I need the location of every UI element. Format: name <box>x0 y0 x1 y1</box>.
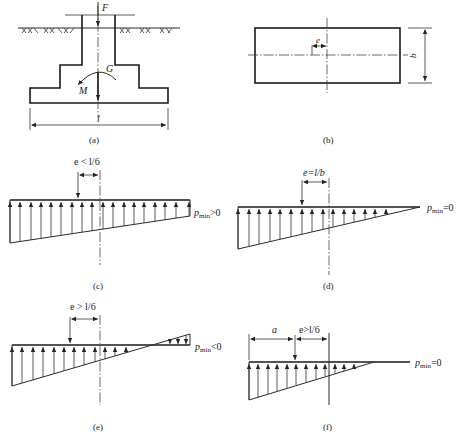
caption-d: (d) <box>323 281 334 291</box>
label-m: M <box>78 85 88 96</box>
condition-c: e < l/6 <box>74 156 100 167</box>
soil-hatch-icon <box>22 28 172 33</box>
label-l: l <box>97 113 100 124</box>
pmin-d: pmin=0 <box>426 202 454 215</box>
pressure-arrows <box>238 209 386 249</box>
caption-a: (a) <box>89 135 99 145</box>
label-b: b <box>408 53 418 58</box>
pressure-arrows <box>249 364 354 400</box>
condition-e: e > l/6 <box>70 301 96 312</box>
label-f: F <box>101 2 109 13</box>
dim-a-label: a <box>272 324 277 335</box>
panel-f-pressure-redistributed: a e>l/6 pmin=0 (f) <box>249 324 442 432</box>
condition-f: e>l/6 <box>299 324 320 335</box>
pmin-c: pmin>0 <box>193 207 221 220</box>
pressure-arrows <box>12 347 126 386</box>
condition-d: e=l/b <box>303 167 325 178</box>
panel-e-pressure-tension: e > l/6 pmin<0 (e) <box>12 301 222 432</box>
panel-c-pressure-trapezoid: e < l/6 pmin>0 (c) <box>10 156 221 291</box>
eccentric-foundation-diagram: F G M l (a) e b (b) e < l/6 <box>0 0 457 435</box>
caption-b: (b) <box>323 135 334 145</box>
pressure-arrows <box>10 202 189 243</box>
panel-d-pressure-triangle: e=l/b pmin=0 (d) <box>238 167 454 291</box>
pmin-f: pmin=0 <box>414 357 442 370</box>
label-e: e <box>316 35 320 45</box>
panel-b-plan-view: e b (b) <box>248 18 432 145</box>
moment-m-arc <box>78 72 116 85</box>
panel-a-foundation-section: F G M l (a) <box>18 2 180 145</box>
caption-c: (c) <box>93 281 103 291</box>
caption-e: (e) <box>93 422 103 432</box>
caption-f: (f) <box>323 422 332 432</box>
label-g: G <box>106 63 113 74</box>
pmin-e: pmin<0 <box>194 341 222 354</box>
